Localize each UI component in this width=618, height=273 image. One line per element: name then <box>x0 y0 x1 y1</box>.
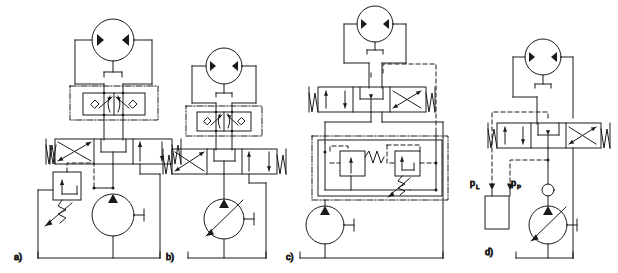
panel-label-d: d) <box>485 247 493 257</box>
panel-label-a: a) <box>14 252 22 262</box>
svg-text:p: p <box>470 178 475 188</box>
circuit-canvas: a) <box>0 0 618 273</box>
svg-text:p: p <box>511 178 516 188</box>
panel-label-c: c) <box>286 252 294 262</box>
svg-text:P: P <box>517 184 521 190</box>
hydraulic-circuit-figure: a) <box>0 0 618 273</box>
sheet-background <box>0 0 618 273</box>
panel-label-b: b) <box>166 252 174 262</box>
